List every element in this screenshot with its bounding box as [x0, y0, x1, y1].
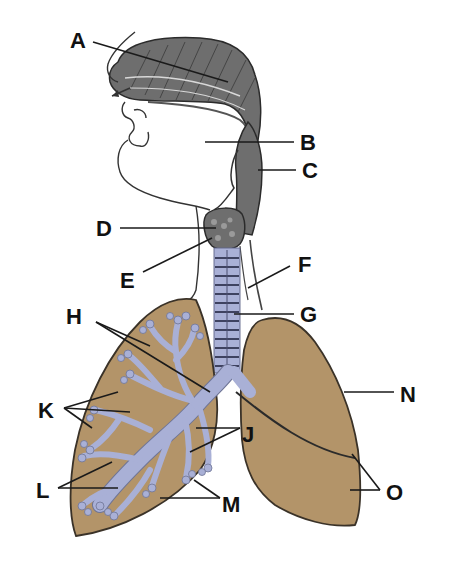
label-D: D: [96, 216, 112, 241]
label-J: J: [242, 422, 254, 447]
left-lung: [71, 299, 228, 536]
respiratory-diagram: A B C D E F G H J K L M N O: [0, 0, 457, 580]
label-M: M: [222, 492, 240, 517]
label-E: E: [120, 268, 135, 293]
label-H: H: [66, 304, 82, 329]
label-G: G: [300, 302, 317, 327]
label-L: L: [36, 478, 49, 503]
label-A: A: [70, 28, 86, 53]
label-C: C: [302, 158, 318, 183]
label-O: O: [386, 480, 403, 505]
label-K: K: [38, 398, 54, 423]
trachea: [214, 248, 240, 373]
label-F: F: [298, 252, 311, 277]
label-B: B: [300, 130, 316, 155]
label-N: N: [400, 382, 416, 407]
